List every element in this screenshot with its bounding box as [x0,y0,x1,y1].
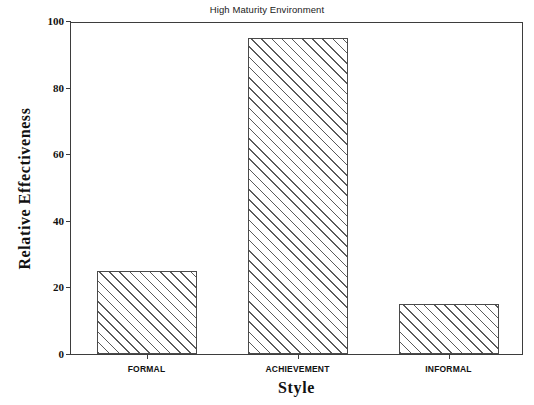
y-tick-mark [66,354,71,355]
y-tick-label: 0 [59,348,65,360]
y-tick-mark [66,287,71,288]
y-tick-mark [66,221,71,222]
bar [97,271,197,354]
x-tick-mark [298,354,299,359]
x-tick-label: ACHIEVEMENT [265,364,329,374]
y-tick-mark [66,154,71,155]
bar [399,304,499,354]
x-axis-title: Style [70,379,523,397]
y-tick-label: 20 [53,281,64,293]
bar [248,38,348,354]
y-tick-label: 80 [53,82,64,94]
y-tick-label: 40 [53,215,64,227]
plot-area: 020406080100 FORMALACHIEVEMENTINFORMAL [70,22,523,355]
x-tick-label: INFORMAL [425,364,471,374]
y-axis-title: Relative Effectiveness [14,22,36,355]
chart-title: High Maturity Environment [0,4,534,15]
y-tick-mark [66,21,71,22]
x-tick-mark [449,354,450,359]
y-tick-label: 100 [48,15,65,27]
bar-chart-figure: High Maturity Environment Relative Effec… [0,0,534,405]
y-tick-label: 60 [53,148,64,160]
x-tick-label: FORMAL [128,364,166,374]
y-tick-mark [66,88,71,89]
x-tick-mark [147,354,148,359]
